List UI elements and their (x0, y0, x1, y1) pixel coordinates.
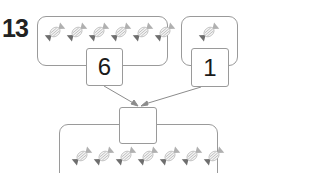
wrapped-candy-icon (115, 145, 137, 171)
wrapped-candy-icon (93, 145, 115, 171)
candy-row-whole (71, 145, 225, 171)
arrow-right (141, 87, 201, 106)
whole-answer-box[interactable] (119, 107, 157, 144)
wrapped-candy-icon (181, 145, 203, 171)
wrapped-candy-icon (159, 145, 181, 171)
wrapped-candy-icon (137, 145, 159, 171)
wrapped-candy-icon (203, 145, 225, 171)
arrow-left (104, 86, 138, 106)
part-value-box-right: 1 (191, 48, 229, 87)
wrapped-candy-icon (71, 145, 93, 171)
part-value-box-left: 6 (86, 48, 123, 86)
